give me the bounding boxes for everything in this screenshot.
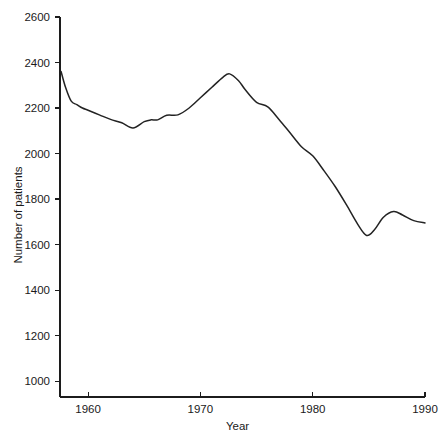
y-axis-title: Number of patients [12, 166, 24, 263]
y-axis-ticks: 100012001400160018002000220024002600 [24, 11, 60, 387]
data-series-line [61, 72, 425, 236]
line-chart: 100012001400160018002000220024002600 196… [0, 0, 439, 438]
y-tick-label: 1600 [24, 239, 50, 251]
x-tick-label: 1990 [412, 403, 438, 415]
x-tick-label: 1960 [75, 403, 101, 415]
x-axis-title: Year [226, 420, 249, 432]
x-axis-ticks: 1960197019801990 [75, 392, 438, 415]
x-tick-label: 1980 [300, 403, 326, 415]
y-tick-label: 2200 [24, 102, 50, 114]
y-tick-label: 2400 [24, 57, 50, 69]
y-tick-label: 2600 [24, 11, 50, 23]
y-tick-label: 1200 [24, 330, 50, 342]
x-tick-label: 1970 [188, 403, 214, 415]
y-tick-label: 1800 [24, 193, 50, 205]
chart-container: 100012001400160018002000220024002600 196… [0, 0, 439, 438]
y-tick-label: 1000 [24, 375, 50, 387]
y-tick-label: 2000 [24, 148, 50, 160]
y-tick-label: 1400 [24, 284, 50, 296]
